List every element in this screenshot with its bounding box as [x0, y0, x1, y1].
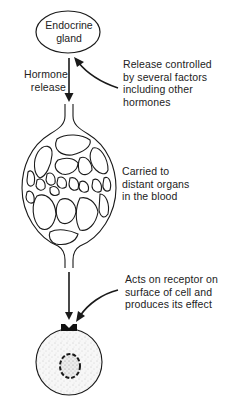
carried-line-3: in the blood [122, 190, 189, 203]
receptor-arrowhead [76, 311, 85, 322]
release-control-line-3: including other [123, 83, 212, 96]
release-control-line-4: hormones [123, 96, 212, 109]
blood-vessel-network [22, 104, 116, 268]
hormone-release-line-1: Hormone [24, 68, 66, 81]
acts-on-line-3: produces its effect [125, 298, 218, 311]
receptor-icon [61, 324, 77, 331]
gland-label-line-1: Endocrine [40, 19, 98, 32]
receptor-curved-arrow [80, 290, 118, 316]
carried-label: Carried to distant organs in the blood [122, 165, 189, 203]
control-curved-arrow [78, 62, 118, 88]
carried-line-1: Carried to [122, 165, 189, 178]
hormone-release-label: Hormone release [24, 68, 66, 93]
release-control-label: Release controlled by several factors in… [123, 58, 212, 108]
hormone-release-arrowhead [65, 93, 74, 102]
release-control-line-2: by several factors [123, 71, 212, 84]
hormone-release-line-2: release [24, 81, 66, 94]
release-control-line-1: Release controlled [123, 58, 212, 71]
acts-on-line-2: surface of cell and [125, 286, 218, 299]
cell-nucleus [60, 354, 80, 378]
transport-arrowhead [65, 312, 73, 320]
control-arrowhead [74, 57, 84, 67]
carried-line-2: distant organs [122, 178, 189, 191]
endocrine-gland-label: Endocrine gland [40, 19, 98, 44]
acts-on-label: Acts on receptor on surface of cell and … [125, 273, 218, 311]
gland-label-line-2: gland [40, 32, 98, 45]
acts-on-line-1: Acts on receptor on [125, 273, 218, 286]
